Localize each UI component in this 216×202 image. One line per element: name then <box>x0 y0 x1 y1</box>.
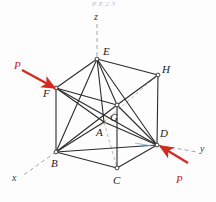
vertex-label-F: F <box>42 87 50 99</box>
member-F-A <box>56 88 104 122</box>
member-G-H <box>117 75 158 105</box>
joint-B <box>54 150 58 154</box>
axis-label-x: x <box>11 172 17 183</box>
vertex-label-B: B <box>51 157 58 169</box>
page-top-text: P E 2 3 <box>91 0 116 8</box>
axis-label-y: y <box>199 143 205 154</box>
force-arrow-upper-left <box>22 70 55 88</box>
member-D-H <box>157 75 158 145</box>
vertex-label-D: D <box>159 127 168 139</box>
figure-container: P E 2 3 <box>0 0 216 202</box>
members-group <box>56 59 158 168</box>
member-C-D <box>117 145 157 168</box>
member-B-D <box>56 145 157 152</box>
force-label-upper-left: P <box>13 59 21 71</box>
truss-figure: P E 2 3 <box>0 0 216 202</box>
member-B-C <box>56 152 117 168</box>
member-D-G <box>117 105 157 145</box>
axis-label-z: z <box>93 11 98 22</box>
member-B-G <box>56 105 117 152</box>
vertex-label-C: C <box>113 174 121 186</box>
joint-G <box>115 103 119 107</box>
joint-H <box>156 73 160 77</box>
hidden-members-group <box>56 75 158 168</box>
vertex-label-G: G <box>110 111 118 123</box>
vertex-label-E: E <box>102 45 110 57</box>
joint-C <box>115 166 119 170</box>
vertex-label-A: A <box>95 126 103 138</box>
force-arrow-lower-right <box>160 146 188 163</box>
member-F-G <box>56 88 117 105</box>
joint-D <box>155 143 159 147</box>
joint-E <box>95 57 99 61</box>
force-label-lower-right: P <box>175 173 183 185</box>
member-A-C <box>104 122 117 168</box>
vertex-label-H: H <box>161 63 171 75</box>
